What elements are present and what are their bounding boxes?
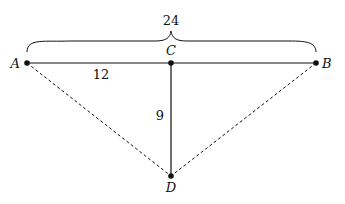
point-c <box>168 60 174 66</box>
geometry-diagram: 24 A C B D 12 9 <box>0 0 345 204</box>
segment-bd <box>171 63 316 176</box>
length-ac-label: 12 <box>93 67 110 82</box>
brace-label: 24 <box>163 13 180 28</box>
label-a: A <box>10 56 20 71</box>
label-b: B <box>321 56 332 71</box>
label-c: C <box>166 43 176 58</box>
point-b <box>313 60 319 66</box>
length-cd-label: 9 <box>156 108 164 123</box>
point-a <box>24 60 30 66</box>
point-d <box>168 173 174 179</box>
label-d: D <box>165 180 177 195</box>
